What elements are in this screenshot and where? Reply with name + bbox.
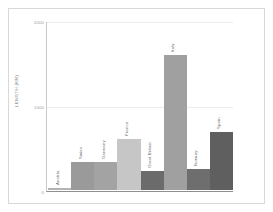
bar-category-label: Italy	[170, 43, 175, 52]
bar-category-label: France	[124, 122, 129, 136]
bar-slot: France	[117, 22, 140, 190]
bar[interactable]	[94, 162, 117, 190]
bar-slot: Great Britain	[141, 22, 164, 190]
bar[interactable]	[71, 162, 94, 190]
plot-area: AustriaSwissGermanyFranceGreat BritainIt…	[46, 22, 233, 192]
y-tick-label: 0	[41, 190, 44, 195]
bar[interactable]	[210, 132, 233, 190]
bar-category-label: Austria	[55, 171, 60, 185]
bar-category-label: Swiss	[78, 147, 83, 159]
bar[interactable]	[164, 55, 187, 190]
bar-series: AustriaSwissGermanyFranceGreat BritainIt…	[48, 22, 233, 190]
bar-slot: Norway	[187, 22, 210, 190]
bar[interactable]	[187, 169, 210, 190]
bar-chart-figure: LENGTH (KM) 0 1000 2000 AustriaSwissGerm…	[0, 0, 273, 212]
y-tick-label: 1000	[34, 105, 44, 110]
y-axis-tick-labels: 0 1000 2000	[20, 22, 44, 192]
bar[interactable]	[141, 171, 164, 190]
bar-category-label: Spain	[216, 117, 221, 129]
bar-slot: Swiss	[71, 22, 94, 190]
bar-category-label: Germany	[101, 140, 106, 159]
y-axis-title: LENGTH (KM)	[14, 75, 19, 107]
bar-category-label: Great Britain	[147, 142, 152, 168]
bar[interactable]	[117, 139, 140, 190]
bar[interactable]	[48, 188, 71, 190]
y-tick-label: 2000	[34, 20, 44, 25]
bar-slot: Italy	[164, 22, 187, 190]
bar-slot: Austria	[48, 22, 71, 190]
bar-category-label: Norway	[193, 150, 198, 165]
bar-slot: Spain	[210, 22, 233, 190]
bar-slot: Germany	[94, 22, 117, 190]
